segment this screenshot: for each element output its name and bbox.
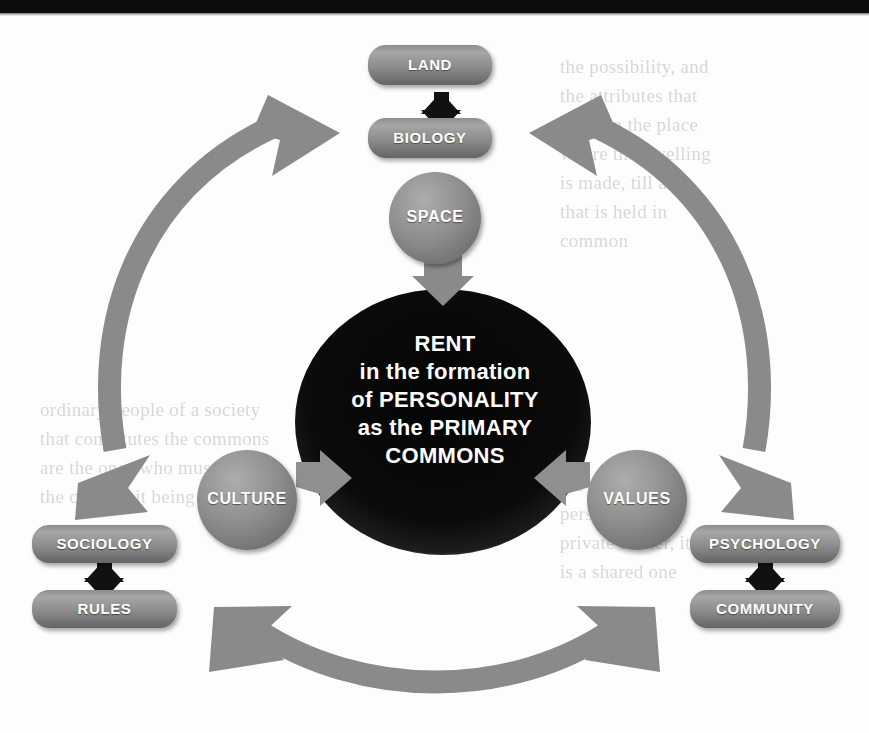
node-sociology bbox=[32, 525, 177, 563]
connector-bottom-curve bbox=[209, 606, 660, 682]
node-culture bbox=[197, 450, 297, 550]
center-ellipse bbox=[295, 289, 591, 555]
node-community bbox=[690, 590, 840, 628]
node-rules bbox=[32, 590, 177, 628]
diagram-svg bbox=[0, 0, 869, 733]
node-psychology bbox=[690, 525, 840, 563]
node-biology bbox=[368, 118, 492, 158]
figure-canvas: the possibility, and the attributes that… bbox=[0, 0, 869, 733]
node-values bbox=[587, 450, 687, 550]
node-land bbox=[368, 45, 492, 85]
node-space bbox=[389, 172, 481, 264]
